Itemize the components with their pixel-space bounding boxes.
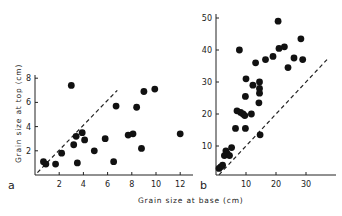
data-point <box>91 147 98 154</box>
data-point <box>113 103 120 110</box>
data-point <box>68 82 75 89</box>
data-point <box>232 125 239 132</box>
data-point <box>177 130 184 137</box>
data-point <box>219 162 226 169</box>
data-point <box>74 160 81 167</box>
y-tick-label: 6 <box>26 98 31 107</box>
x-tick-label: 20 <box>271 180 281 189</box>
y-tick-label: 2 <box>26 147 31 156</box>
data-point <box>275 18 282 25</box>
data-point <box>281 43 288 50</box>
data-point <box>291 55 298 62</box>
data-point <box>52 161 59 168</box>
scatter-chart-figure: 246810122468 1020301020304050 a b Grain … <box>0 0 342 216</box>
data-point <box>299 56 306 63</box>
y-axis-title: Grain size at top (cm) <box>14 64 23 163</box>
data-point <box>250 82 257 89</box>
data-point <box>257 131 264 138</box>
x-axis-title: Grain size at base (cm) <box>138 196 244 205</box>
data-point <box>141 88 148 95</box>
data-point <box>298 35 305 42</box>
one-to-one-reference-line <box>219 60 327 175</box>
data-point <box>285 64 292 71</box>
data-point <box>242 125 249 132</box>
data-point <box>79 129 86 136</box>
data-point <box>243 75 250 82</box>
data-point <box>151 86 158 93</box>
data-point <box>228 144 235 151</box>
x-tick-label: 6 <box>105 180 110 189</box>
y-tick-label: 50 <box>202 14 212 23</box>
y-tick-label: 30 <box>202 78 212 87</box>
y-tick-label: 8 <box>26 74 31 83</box>
y-tick-label: 20 <box>202 110 212 119</box>
data-point <box>262 56 269 63</box>
data-point <box>241 112 248 119</box>
x-tick-label: 4 <box>81 180 86 189</box>
data-point <box>270 53 277 60</box>
data-point <box>70 141 77 148</box>
data-point <box>242 93 249 100</box>
data-point <box>102 135 109 142</box>
y-tick-label: 10 <box>202 142 212 151</box>
x-tick-label: 12 <box>175 180 185 189</box>
data-point <box>226 152 233 159</box>
data-point <box>130 130 137 137</box>
data-point <box>248 111 255 118</box>
panel-a-label: a <box>8 179 15 192</box>
x-tick-label: 30 <box>301 180 311 189</box>
data-point <box>73 133 80 140</box>
x-tick-label: 2 <box>57 180 62 189</box>
data-point <box>110 158 117 165</box>
data-point <box>133 104 140 111</box>
x-tick-label: 8 <box>129 180 134 189</box>
data-point <box>256 79 263 86</box>
panel-b-label: b <box>200 179 207 192</box>
data-point <box>58 150 65 157</box>
y-tick-label: 4 <box>26 123 31 132</box>
x-tick-label: 10 <box>241 180 251 189</box>
data-point <box>256 99 263 106</box>
y-tick-label: 40 <box>202 46 212 55</box>
data-point <box>252 59 259 66</box>
data-point <box>42 161 49 168</box>
data-point <box>236 47 243 54</box>
x-tick-label: 10 <box>151 180 161 189</box>
panel-b-plot: 1020301020304050 <box>202 14 336 189</box>
panel-a-plot: 246810122468 <box>26 74 193 189</box>
data-point <box>138 145 145 152</box>
data-point <box>81 137 88 144</box>
data-point <box>256 90 263 97</box>
